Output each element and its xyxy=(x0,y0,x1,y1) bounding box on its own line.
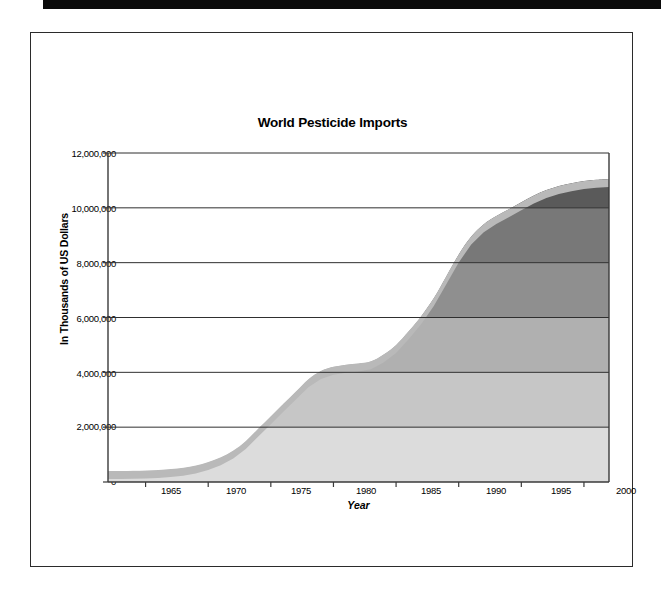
black-header-band xyxy=(43,0,661,9)
document-page-frame: World Pesticide Imports In Thousands of … xyxy=(30,32,633,567)
chart-plot-wrapper: In Thousands of US Dollars Year 12,000,0… xyxy=(31,33,634,568)
chart-canvas xyxy=(31,33,634,568)
